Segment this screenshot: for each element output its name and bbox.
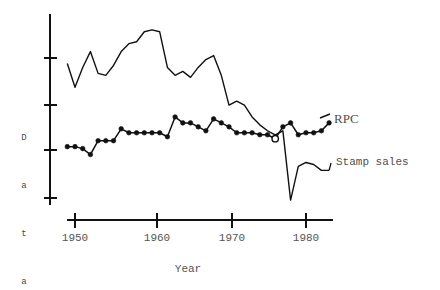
- rpc-marker: [319, 129, 324, 134]
- rpc-marker: [88, 152, 93, 157]
- rpc-marker: [134, 130, 139, 135]
- rpc-marker: [188, 121, 193, 126]
- x-tick-label-1960: 1960: [135, 232, 179, 244]
- x-axis-title: Year: [158, 263, 218, 275]
- rpc-marker: [80, 146, 85, 151]
- rpc-marker: [157, 130, 162, 135]
- rpc-marker: [204, 129, 209, 134]
- series-stamp-sales: [67, 30, 329, 200]
- chart-figure: D a t a 1950 1960 1970 1980 Year RPC Sta…: [0, 0, 440, 290]
- rpc-marker: [65, 144, 70, 149]
- rpc-marker: [196, 125, 201, 130]
- rpc-marker: [250, 130, 255, 135]
- rpc-marker: [73, 144, 78, 149]
- rpc-marker: [304, 130, 309, 135]
- rpc-marker: [96, 138, 101, 143]
- rpc-marker: [227, 125, 232, 130]
- rpc-marker: [288, 121, 293, 126]
- rpc-marker: [211, 117, 216, 122]
- rpc-marker: [258, 132, 263, 137]
- rpc-open-marker: [272, 136, 278, 142]
- y-axis-title-char: D: [18, 130, 30, 146]
- x-tick-label-1980: 1980: [284, 232, 328, 244]
- rpc-marker: [127, 130, 132, 135]
- series-label-rpc: RPC: [334, 111, 359, 127]
- y-axis-title-char: a: [18, 178, 30, 194]
- rpc-marker: [142, 130, 147, 135]
- series-rpc: [65, 114, 331, 157]
- rpc-marker: [150, 130, 155, 135]
- rpc-marker: [281, 125, 286, 130]
- chart-plot-area: [0, 0, 440, 290]
- rpc-marker: [181, 121, 186, 126]
- rpc-marker: [327, 121, 332, 126]
- stamp-sales-line: [67, 30, 329, 200]
- y-axis-title-char: t: [18, 226, 30, 242]
- y-axis-title: D a t a: [18, 98, 30, 290]
- stamp-sales-leader-line: [329, 163, 331, 170]
- rpc-marker: [265, 132, 270, 137]
- rpc-marker: [242, 130, 247, 135]
- rpc-label-connector: [320, 114, 330, 118]
- rpc-marker: [104, 138, 109, 143]
- rpc-marker: [111, 138, 116, 143]
- rpc-marker: [173, 115, 178, 120]
- series-label-stamp-sales: Stamp sales: [336, 156, 409, 168]
- x-tick-label-1970: 1970: [210, 232, 254, 244]
- y-axis-title-char: a: [18, 274, 30, 290]
- rpc-marker: [219, 121, 224, 126]
- x-tick-label-1950: 1950: [53, 232, 97, 244]
- rpc-marker: [296, 132, 301, 137]
- rpc-marker: [119, 127, 124, 132]
- rpc-marker: [234, 130, 239, 135]
- rpc-marker: [311, 130, 316, 135]
- rpc-marker: [165, 134, 170, 139]
